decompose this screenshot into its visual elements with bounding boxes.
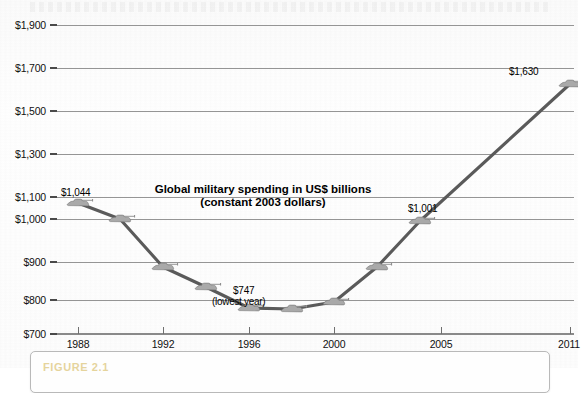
point-label-1001: $1,001 <box>408 203 437 214</box>
chart-subtitle: (constant 2003 dollars) <box>134 196 392 210</box>
data-point-marker <box>323 298 349 305</box>
figure-caption-label: FIGURE 2.1 <box>43 361 109 373</box>
y-tick-label: $1,500 <box>0 105 46 117</box>
x-tick-label: 1988 <box>55 338 101 350</box>
y-tick-label: $1,100 <box>0 191 46 203</box>
data-point-marker <box>67 199 93 206</box>
y-tick-label: $1,900 <box>0 19 46 31</box>
y-tick-label: $1,000 <box>0 213 46 225</box>
x-tick-label: 1992 <box>140 338 186 350</box>
data-point-marker <box>366 263 392 270</box>
data-point-marker <box>152 263 178 270</box>
gridlines <box>57 25 574 300</box>
x-tick-label: 2005 <box>418 338 464 350</box>
y-tick-label: $1,300 <box>0 148 46 160</box>
y-tick-label: $900 <box>0 256 46 268</box>
x-tick-label: 2000 <box>311 338 357 350</box>
point-label-747: $747 <box>233 285 254 296</box>
figure-caption-box: FIGURE 2.1 <box>30 351 550 393</box>
chart-svg <box>0 0 578 342</box>
x-tick-label: 2011 <box>546 338 585 350</box>
point-label-1630: $1,630 <box>509 66 538 77</box>
x-axis-ticks <box>78 327 570 334</box>
point-label-1044: $1,044 <box>61 187 90 198</box>
y-tick-label: $800 <box>0 294 46 306</box>
data-point-marker <box>559 80 578 87</box>
y-tick-label: $700 <box>0 328 46 340</box>
y-axis-tick-stubs <box>50 25 57 334</box>
chart-plot-area: $1,900 $1,700 $1,500 $1,300 $1,100 $1,00… <box>0 0 578 342</box>
point-note-lowest-year: (lowest year) <box>212 296 265 307</box>
data-point-marker <box>409 217 435 224</box>
chart-title: Global military spending in US$ billions <box>134 183 392 197</box>
x-tick-label: 1996 <box>226 338 272 350</box>
y-tick-label: $1,700 <box>0 62 46 74</box>
